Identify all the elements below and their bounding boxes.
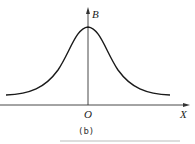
x-axis-label: X	[180, 109, 187, 120]
bell-curve-diagram	[0, 0, 195, 144]
y-axis-label: B	[92, 9, 99, 20]
truncated-caption-line	[60, 140, 180, 142]
origin-label: O	[84, 109, 92, 120]
y-axis-arrow-icon	[86, 7, 90, 14]
x-axis-arrow-icon	[183, 103, 190, 107]
figure-caption: (b)	[78, 127, 94, 136]
